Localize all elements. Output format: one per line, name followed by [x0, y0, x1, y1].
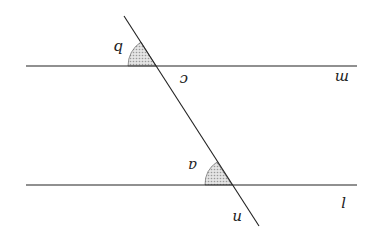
- label-a: a: [188, 157, 197, 175]
- label-c: c: [179, 71, 188, 89]
- label-n: n: [232, 209, 242, 227]
- parallel-lines-diagram: b c m a l n: [0, 0, 378, 241]
- label-m: m: [335, 69, 349, 87]
- label-b: b: [113, 39, 123, 57]
- angle-b-shade: [128, 42, 156, 66]
- angle-a-shade: [205, 162, 232, 185]
- label-l: l: [341, 193, 346, 211]
- transversal-n: [124, 16, 259, 226]
